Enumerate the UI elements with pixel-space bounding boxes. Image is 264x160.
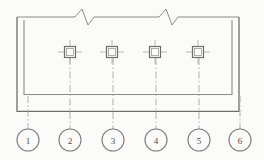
terminals-group xyxy=(58,40,210,64)
technical-drawing-canvas: 1 2 3 4 5 6 xyxy=(0,0,264,160)
callout-5[interactable]: 5 xyxy=(188,129,210,151)
callout-2[interactable]: 2 xyxy=(59,129,81,151)
callout-4[interactable]: 4 xyxy=(145,129,167,151)
callout-3[interactable]: 3 xyxy=(102,129,124,151)
drawing-svg: 1 2 3 4 5 6 xyxy=(0,0,264,160)
callout-1[interactable]: 1 xyxy=(17,129,39,151)
terminal-symbol-2[interactable] xyxy=(100,40,124,64)
callout-6[interactable]: 6 xyxy=(229,129,251,151)
callout-3-label: 3 xyxy=(111,136,116,146)
callout-5-label: 5 xyxy=(197,136,202,146)
callout-1-label: 1 xyxy=(26,136,31,146)
break-left-icon xyxy=(75,9,101,25)
callout-2-label: 2 xyxy=(68,136,73,146)
leader-lines-group xyxy=(28,58,240,129)
callout-6-label: 6 xyxy=(238,136,243,146)
terminal-symbol-4[interactable] xyxy=(186,40,210,64)
callouts-group: 1 2 3 4 5 6 xyxy=(17,129,251,151)
outer-housing-group xyxy=(17,17,239,112)
break-right-icon xyxy=(159,9,185,25)
callout-4-label: 4 xyxy=(154,136,159,146)
terminal-symbol-3[interactable] xyxy=(143,40,167,64)
